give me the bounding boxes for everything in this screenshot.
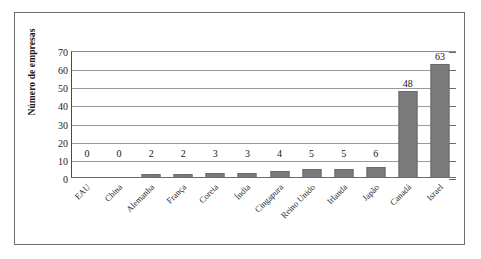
bar-value-label: 4 xyxy=(277,148,282,159)
y-tick-label: 60 xyxy=(58,65,68,76)
bars-layer: 00223345564863 xyxy=(71,51,456,178)
x-tick-label: EAU xyxy=(71,180,103,242)
x-tick-label: Irlanda xyxy=(328,180,360,242)
bar-group: 2 xyxy=(135,51,167,178)
bar-group: 63 xyxy=(424,51,456,178)
y-axis-title: Número de empresas xyxy=(27,17,41,127)
bar-value-label: 0 xyxy=(117,148,122,159)
x-tick-label-text: Índia xyxy=(233,182,253,202)
bar-chart: Número de empresas 010203040506070 00223… xyxy=(15,13,466,246)
x-tick-label: Alemanha xyxy=(135,180,167,242)
bar-group: 3 xyxy=(199,51,231,178)
bar-value-label: 0 xyxy=(85,148,90,159)
bar-group: 0 xyxy=(103,51,135,178)
y-tick-label: 40 xyxy=(58,101,68,112)
y-tick-label: 20 xyxy=(58,137,68,148)
x-tick-label-text: EAU xyxy=(73,182,93,202)
x-tick-label-text: Japão xyxy=(360,182,381,203)
x-tick-label: Coreia xyxy=(199,180,231,242)
y-tick-label: 10 xyxy=(58,155,68,166)
x-tick-label-text: China xyxy=(103,182,125,204)
y-tick-label: 70 xyxy=(58,47,68,58)
bar-value-label: 48 xyxy=(403,78,413,89)
bar-group: 0 xyxy=(71,51,103,178)
bar-group: 6 xyxy=(360,51,392,178)
y-tick-label: 30 xyxy=(58,119,68,130)
x-axis-labels: EAUChinaAlemanhaFrançaCoreiaÍndiaCingapu… xyxy=(71,180,456,242)
x-tick-label-text: Israel xyxy=(424,182,445,203)
bar-group: 3 xyxy=(231,51,263,178)
x-tick-label: Israel xyxy=(424,180,456,242)
bar-group: 48 xyxy=(392,51,424,178)
bar-value-label: 2 xyxy=(181,148,186,159)
x-tick-label: Japão xyxy=(360,180,392,242)
x-tick-label: Canadá xyxy=(392,180,424,242)
bar-value-label: 3 xyxy=(213,148,218,159)
bar-value-label: 63 xyxy=(435,51,445,62)
bar-value-label: 6 xyxy=(373,148,378,159)
x-tick-label-text: Canadá xyxy=(388,182,413,207)
figure-border: Número de empresas 010203040506070 00223… xyxy=(14,12,465,245)
bar-value-label: 5 xyxy=(309,148,314,159)
x-tick-label-text: França xyxy=(165,182,189,206)
bar-value-label: 2 xyxy=(149,148,154,159)
x-tick-label: França xyxy=(167,180,199,242)
x-tick-label-text: Coreia xyxy=(197,182,220,205)
figure-root: Número de empresas 010203040506070 00223… xyxy=(0,0,481,259)
y-tick-label: 50 xyxy=(58,83,68,94)
bar xyxy=(430,64,449,178)
y-tick-label: 0 xyxy=(63,174,68,185)
x-tick-label: Reino Unido xyxy=(296,180,328,242)
bar xyxy=(398,91,417,178)
x-tick-label-text: Irlanda xyxy=(324,182,348,206)
bar-value-label: 3 xyxy=(245,148,250,159)
bar-group: 4 xyxy=(264,51,296,178)
